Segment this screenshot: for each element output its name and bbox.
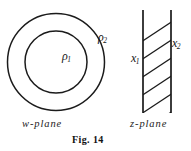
z-plane-strip [141, 10, 173, 132]
label-x-1: x1 [131, 52, 140, 64]
w-plane-annulus [8, 14, 105, 111]
label-rho-2-subscript: 2 [103, 36, 107, 45]
label-rho-2: ρ2 [98, 31, 108, 43]
label-x-1-subscript: 1 [136, 57, 140, 66]
label-rho-1-subscript: 1 [67, 55, 71, 64]
label-x-2-subscript: 2 [177, 42, 181, 51]
inner-circle-rho1 [25, 31, 87, 93]
figure-14-container: ρ1 ρ2 x1 x2 w-plane z-plane Fig. 14 [0, 0, 191, 151]
label-rho-1: ρ1 [62, 50, 72, 62]
strip-hatching [141, 21, 173, 132]
figure-number-caption: Fig. 14 [72, 134, 104, 145]
label-x-2: x2 [172, 37, 181, 49]
caption-z-plane: z-plane [130, 118, 167, 129]
outer-circle-rho2 [8, 14, 105, 111]
caption-w-plane: w-plane [22, 118, 62, 129]
